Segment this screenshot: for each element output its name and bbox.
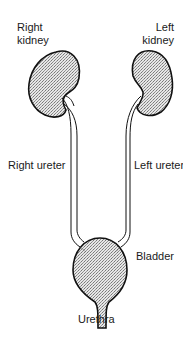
- right-ureter: [62, 96, 84, 247]
- left-ureter-label: Left ureter: [134, 159, 183, 171]
- urethra-label: Urethra: [78, 313, 116, 325]
- urinary-tract-diagram: Right kidney Left kidney Right ureter Le…: [0, 0, 183, 337]
- right-ureter-label: Right ureter: [8, 159, 66, 171]
- right-kidney-shape: [29, 51, 80, 117]
- left-ureter: [118, 96, 141, 247]
- left-kidney-label-line2: kidney: [142, 34, 174, 46]
- right-kidney-label-line2: kidney: [17, 34, 49, 46]
- left-kidney-shape: [132, 51, 172, 116]
- right-kidney-label-line1: Right: [17, 21, 43, 33]
- left-kidney-label-line1: Left: [156, 21, 174, 33]
- bladder-label: Bladder: [136, 250, 174, 262]
